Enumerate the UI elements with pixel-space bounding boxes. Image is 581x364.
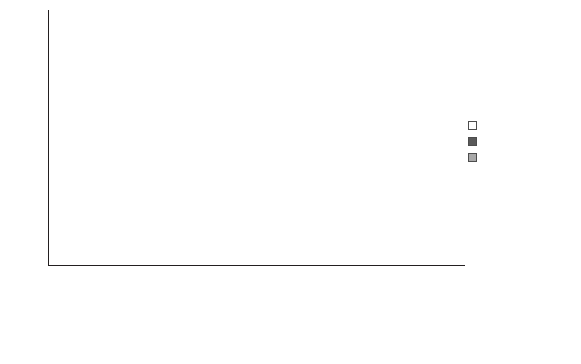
y-axis-title	[14, 0, 28, 255]
legend-item	[468, 118, 482, 132]
x-axis-line	[48, 265, 465, 266]
bar-group	[48, 10, 463, 265]
legend-swatch-26-weeks-over-icon	[468, 121, 477, 130]
plot-area	[48, 10, 463, 265]
legend-swatch-13-to-26-weeks-icon	[468, 137, 477, 146]
legend-item	[468, 150, 482, 164]
legend-item	[468, 134, 482, 148]
legend-swatch-under-13-weeks-icon	[468, 153, 477, 162]
chart-legend	[468, 118, 482, 166]
stacked-bar-chart	[0, 0, 581, 364]
